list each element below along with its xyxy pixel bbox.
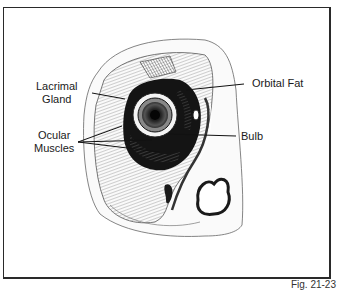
label-ocular-muscles: Ocular Muscles	[34, 129, 74, 155]
pupil	[150, 110, 160, 120]
label-line: Lacrimal	[36, 80, 78, 93]
label-orbital-fat: Orbital Fat	[252, 77, 303, 90]
label-bulb: Bulb	[241, 130, 263, 143]
figure-caption: Fig. 21-23	[291, 279, 336, 290]
label-lacrimal-gland: Lacrimal Gland	[36, 80, 78, 106]
label-line: Orbital Fat	[252, 77, 303, 90]
label-line: Ocular	[34, 129, 74, 142]
sinus	[198, 179, 230, 214]
label-line: Gland	[36, 93, 78, 106]
label-line: Bulb	[241, 130, 263, 143]
label-line: Muscles	[34, 142, 74, 155]
